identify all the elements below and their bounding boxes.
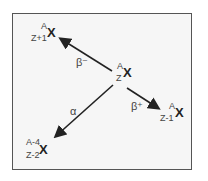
alpha-arrow: [56, 85, 113, 136]
beta-plus-product-atomic: Z-1: [160, 114, 174, 123]
parent-symbol: X: [123, 66, 132, 79]
parent-atomic-number: Z: [116, 74, 122, 83]
beta-plus-product-symbol: X: [175, 106, 184, 119]
alpha-product-mass: A-4: [26, 138, 40, 147]
beta-minus-product-symbol: X: [47, 26, 56, 39]
beta-plus-label: β⁺: [131, 101, 143, 112]
alpha-label: α: [70, 106, 76, 117]
beta-minus-label: β⁻: [76, 57, 88, 68]
beta-minus-product-atomic: Z+1: [31, 34, 47, 43]
alpha-product-symbol: X: [39, 143, 48, 156]
alpha-product-atomic: Z-2: [26, 151, 40, 160]
